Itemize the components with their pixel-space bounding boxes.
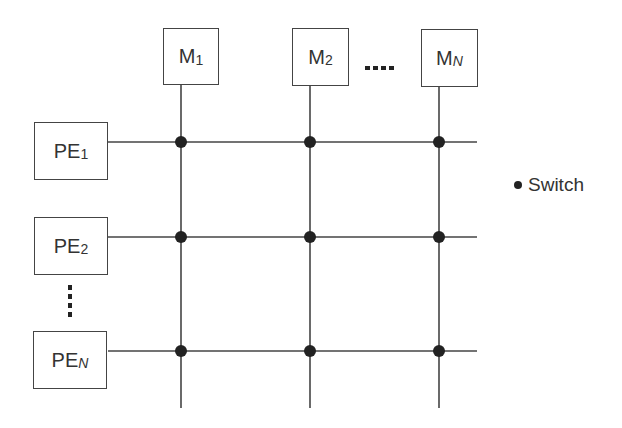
processor-label: PE [54,235,81,258]
processor-subscript: 1 [80,146,88,162]
switch-icon [433,136,445,148]
memory-box-n: MN [421,29,478,87]
processor-box-n: PEN [33,331,107,389]
legend-label: Switch [528,174,584,196]
ellipsis-dot [68,312,72,317]
ellipsis-dot [373,66,378,70]
ellipsis-dot [68,285,72,290]
legend: Switch [514,174,584,196]
memory-subscript: 1 [195,52,203,68]
switch-icon [433,231,445,243]
ellipsis-dot [68,303,72,308]
memory-label: M [308,46,325,69]
memory-subscript: 2 [325,52,333,68]
switch-legend-icon [514,181,522,189]
switch-icon [433,345,445,357]
processor-label: PE [54,140,81,163]
ellipsis-dot [381,66,386,70]
switch-icon [175,136,187,148]
switch-icon [304,231,316,243]
switch-icon [304,345,316,357]
processor-box-1: PE1 [34,122,108,180]
switch-icon [304,136,316,148]
switch-icon [175,231,187,243]
memory-label: M [179,45,196,68]
switch-icon [175,345,187,357]
processor-subscript: 2 [80,241,88,257]
memory-label: M [436,47,453,70]
ellipsis-dot [365,66,370,70]
memory-subscript: N [453,53,463,69]
memory-box-2: M2 [292,28,349,86]
processor-subscript: N [78,355,88,371]
processor-label: PE [52,349,79,372]
memory-box-1: M1 [163,28,219,85]
processor-box-2: PE2 [34,217,108,275]
ellipsis-dot [389,66,394,70]
ellipsis-dot [68,294,72,299]
